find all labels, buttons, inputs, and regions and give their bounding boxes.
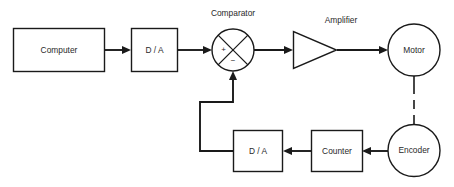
computer-label: Computer <box>41 45 78 55</box>
wire-dac-feedback-to-comparator <box>200 71 237 151</box>
block-computer[interactable]: Computer <box>14 29 105 72</box>
wire-computer-to-dac <box>105 46 131 54</box>
arrowhead-icon <box>379 46 388 54</box>
block-counter[interactable]: Counter <box>312 131 363 172</box>
block-motor[interactable]: Motor <box>388 24 440 76</box>
amplifier-title-label: Amplifier <box>325 15 358 25</box>
dac-forward-label: D / A <box>145 45 164 55</box>
block-diagram-svg: Computer D / A + − Comparator Amplifier … <box>0 0 454 187</box>
block-encoder[interactable]: Encoder <box>388 125 440 177</box>
amplifier-triangle[interactable] <box>294 32 337 69</box>
arrowhead-icon <box>362 147 371 155</box>
comparator-plus-sign: + <box>221 45 226 54</box>
counter-label: Counter <box>322 146 352 156</box>
arrowhead-icon <box>229 71 237 80</box>
wire-dac-to-comparator <box>178 46 212 54</box>
block-dac-feedback[interactable]: D / A <box>234 131 283 172</box>
arrowhead-icon <box>203 46 212 54</box>
comparator-minus-sign: − <box>231 56 236 65</box>
dac-feedback-label: D / A <box>249 146 268 156</box>
arrowhead-icon <box>122 46 131 54</box>
encoder-label: Encoder <box>398 145 429 155</box>
comparator-title-label: Comparator <box>211 8 255 18</box>
block-diagram-canvas: Computer D / A + − Comparator Amplifier … <box>0 0 454 187</box>
wire-counter-to-dac-feedback <box>283 147 311 155</box>
block-comparator[interactable]: + − <box>212 29 254 71</box>
wire-encoder-to-counter <box>362 147 388 155</box>
arrowhead-icon <box>283 147 292 155</box>
motor-label: Motor <box>403 45 425 55</box>
block-dac-forward[interactable]: D / A <box>132 29 178 72</box>
wire-comparator-to-amplifier <box>254 46 293 54</box>
wire-amplifier-to-motor <box>337 46 388 54</box>
block-amplifier[interactable] <box>294 32 337 69</box>
arrowhead-icon <box>284 46 293 54</box>
